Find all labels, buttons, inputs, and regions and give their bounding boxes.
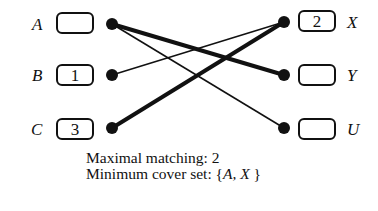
node-dot-a — [106, 18, 118, 30]
node-box-b: 1 — [56, 64, 94, 86]
node-label-c: C — [31, 121, 42, 139]
cover-prefix: Minimum cover set: { — [86, 165, 223, 182]
node-box-c: 3 — [56, 118, 94, 140]
node-box-u — [298, 118, 336, 140]
caption-minimum-cover: Minimum cover set: {A, X } — [86, 166, 261, 182]
cover-suffix: } — [250, 165, 261, 182]
node-dot-c — [106, 122, 118, 134]
bipartite-matching-diagram: A B 1 C 3 2 X Y U Maximal matching: 2 Mi… — [0, 0, 378, 211]
node-label-b: B — [32, 67, 42, 85]
node-dot-u — [278, 122, 290, 134]
node-dot-x — [278, 16, 290, 28]
node-dot-b — [106, 69, 118, 81]
node-box-y — [298, 64, 336, 86]
node-label-u: U — [347, 121, 359, 139]
node-label-a: A — [32, 16, 42, 34]
node-label-x: X — [347, 14, 357, 32]
node-label-y: Y — [347, 67, 356, 85]
cover-set: A, X — [223, 165, 250, 182]
node-box-a — [56, 12, 94, 34]
node-box-x: 2 — [298, 10, 336, 32]
caption-maximal-matching: Maximal matching: 2 — [86, 150, 219, 166]
node-dot-y — [278, 69, 290, 81]
